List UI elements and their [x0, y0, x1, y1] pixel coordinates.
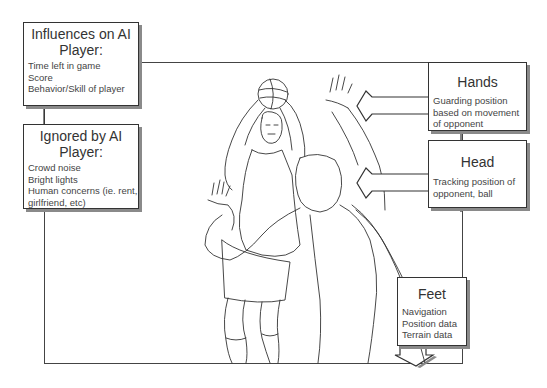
feet-arrow-icon: [395, 345, 437, 368]
influences-list: Time left in game Score Behavior/Skill o…: [28, 60, 134, 95]
ignored-title-line1: Ignored by AI: [28, 128, 134, 144]
list-item: Tracking position of: [433, 176, 522, 188]
list-item: Time left in game: [28, 60, 134, 72]
hands-list: Guarding position based on movement of o…: [433, 95, 522, 130]
feet-title: Feet: [402, 286, 462, 302]
list-item: Behavior/Skill of player: [28, 83, 134, 95]
hands-title: Hands: [433, 74, 522, 90]
head-arrow-icon: [357, 168, 428, 198]
hands-box: Hands Guarding position based on movemen…: [428, 62, 527, 131]
influences-title: Influences on AI Player:: [28, 26, 134, 58]
ignored-title-line2: Player:: [28, 144, 134, 160]
head-title: Head: [433, 154, 522, 170]
ignored-box: Ignored by AI Player: Crowd noise Bright…: [23, 124, 139, 209]
head-box: Head Tracking position of opponent, ball: [428, 140, 527, 208]
list-item: Guarding position: [433, 95, 522, 107]
influences-title-line2: Player:: [28, 42, 134, 58]
list-item: Crowd noise: [28, 162, 134, 174]
influences-box: Influences on AI Player: Time left in ga…: [23, 22, 139, 106]
list-item: Bright lights: [28, 174, 134, 186]
list-item: opponent, ball: [433, 188, 522, 200]
ignored-list: Crowd noise Bright lights Human concerns…: [28, 162, 134, 208]
list-item: Terrain data: [402, 329, 462, 341]
feet-box: Feet Navigation Position data Terrain da…: [397, 277, 467, 346]
list-item: Navigation: [402, 306, 462, 318]
basketball-icon: [258, 79, 288, 109]
list-item: Position data: [402, 318, 462, 330]
head-list: Tracking position of opponent, ball: [433, 176, 522, 199]
list-item: of opponent: [433, 118, 522, 130]
list-item: girlfriend, etc): [28, 197, 134, 209]
list-item: based on movement: [433, 107, 522, 119]
feet-list: Navigation Position data Terrain data: [402, 306, 462, 341]
list-item: Human concerns (ie. rent,: [28, 185, 134, 197]
hands-arrow-icon: [357, 91, 428, 121]
ignored-title: Ignored by AI Player:: [28, 128, 134, 160]
list-item: Score: [28, 72, 134, 84]
influences-title-line1: Influences on AI: [28, 26, 134, 42]
